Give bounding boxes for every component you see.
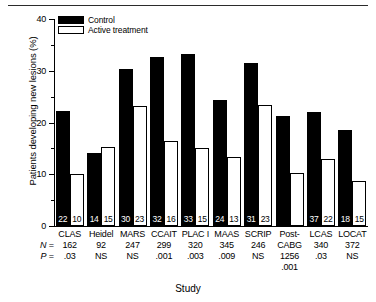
- x-axis-label-table: N = P = CLAS162.03Heidel92NSMARS247NSCCA…: [0, 229, 376, 289]
- x-axis-group-column: LOCAT372NS: [329, 229, 375, 262]
- bar-group: 3216: [150, 19, 178, 226]
- bar-value-label: 23: [135, 215, 144, 225]
- bar-group: 3123: [244, 19, 272, 226]
- bar-active-treatment[interactable]: 10: [70, 174, 84, 226]
- bar-control[interactable]: 32: [150, 57, 164, 226]
- x-axis-n-value: 372: [329, 240, 375, 251]
- bars-layer: 221014153023321633152413312337221815: [54, 19, 368, 227]
- bar-control[interactable]: 31: [244, 63, 258, 226]
- bar-group: [276, 19, 304, 226]
- bar-control[interactable]: 18: [338, 130, 352, 226]
- figure-container: 010203040 Patients developing new lesion…: [0, 0, 376, 302]
- bar-control[interactable]: 33: [181, 54, 195, 226]
- x-axis-p-value: .001: [267, 262, 313, 273]
- bar-group: 3315: [181, 19, 209, 226]
- bar-active-treatment[interactable]: 15: [352, 181, 366, 226]
- bar-value-label: 32: [152, 215, 161, 225]
- bar-control[interactable]: 22: [56, 111, 70, 226]
- bar-control[interactable]: 37: [307, 112, 321, 226]
- bar-group: 3722: [307, 19, 335, 226]
- bar-value-label: 33: [184, 215, 193, 225]
- bar-value-label: 37: [309, 215, 318, 225]
- bar-control[interactable]: [276, 116, 290, 226]
- bar-control[interactable]: 14: [87, 153, 101, 226]
- bar-group: 1415: [87, 19, 115, 226]
- y-axis-title: Patients developing new lesions (%): [28, 6, 38, 216]
- x-axis-title: Study: [0, 283, 376, 294]
- bar-value-label: 16: [166, 215, 175, 225]
- bar-active-treatment[interactable]: 15: [195, 148, 209, 226]
- bar-value-label: 31: [247, 215, 256, 225]
- bar-group: 2210: [56, 19, 84, 226]
- bar-value-label: 18: [341, 215, 350, 225]
- bar-value-label: 22: [323, 215, 332, 225]
- bar-active-treatment[interactable]: 23: [258, 105, 272, 226]
- bar-group: 3023: [119, 19, 147, 226]
- bar-active-treatment[interactable]: 13: [227, 157, 241, 226]
- bar-active-treatment[interactable]: 23: [133, 106, 147, 226]
- x-axis-p-value: NS: [329, 251, 375, 262]
- bar-value-label: 15: [104, 215, 113, 225]
- bar-control[interactable]: 30: [119, 69, 133, 226]
- bar-value-label: 13: [229, 215, 238, 225]
- top-horizontal-rule: [8, 5, 368, 6]
- bar-value-label: 14: [90, 215, 99, 225]
- bar-value-label: 23: [261, 215, 270, 225]
- bar-value-label: 10: [72, 215, 81, 225]
- bar-value-label: 15: [355, 215, 364, 225]
- bar-control[interactable]: 24: [213, 100, 227, 226]
- bar-active-treatment[interactable]: [290, 173, 304, 226]
- bar-active-treatment[interactable]: 22: [321, 159, 335, 226]
- bar-value-label: 24: [215, 215, 224, 225]
- bar-active-treatment[interactable]: 15: [101, 147, 115, 226]
- bar-group: 2413: [213, 19, 241, 226]
- x-axis-study-name: LOCAT: [329, 229, 375, 240]
- bar-value-label: 30: [121, 215, 130, 225]
- bar-active-treatment[interactable]: 16: [164, 141, 178, 226]
- bar-group: 1815: [338, 19, 366, 226]
- bar-value-label: 22: [58, 215, 67, 225]
- bar-value-label: 15: [198, 215, 207, 225]
